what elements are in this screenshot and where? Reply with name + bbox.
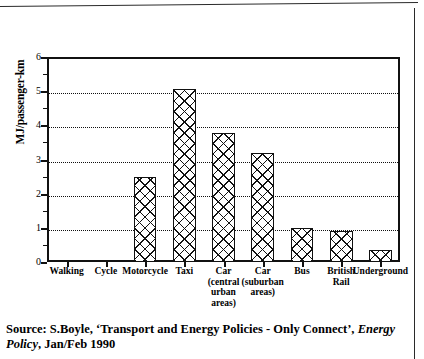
- source-journal: Energy: [358, 322, 396, 336]
- y-tick-label-3: 3: [15, 155, 41, 165]
- bar: [291, 228, 314, 262]
- x-label-line: Underground: [352, 266, 409, 277]
- x-label-line: areas): [234, 287, 291, 298]
- source-journal-cont: Policy: [6, 337, 38, 351]
- bar-slot: [330, 231, 353, 262]
- bar-slot: [173, 89, 196, 262]
- source-issue: , Jan/Feb 1990: [38, 337, 115, 351]
- bar-slot: [369, 250, 392, 262]
- bar-series: [47, 57, 400, 262]
- bar-chart: MJ/passenger-km 0123456 WalkingCycleMoto…: [0, 0, 424, 318]
- bar: [330, 231, 353, 262]
- bar-slot: [212, 133, 235, 262]
- x-label-line: areas): [195, 298, 252, 309]
- y-tick-label-0: 0: [15, 257, 41, 267]
- y-tick-label-1: 1: [15, 223, 41, 233]
- bar-slot: [291, 228, 314, 262]
- y-tick-label-6: 6: [15, 52, 41, 62]
- bar: [251, 153, 274, 262]
- x-label-line: (suburban: [234, 277, 291, 288]
- bar-slot: [251, 153, 274, 262]
- y-axis-tick-labels: 0123456: [13, 57, 41, 262]
- source-caption: Source: S.Boyle, ‘Transport and Energy P…: [6, 322, 410, 338]
- x-label-line: Rail: [313, 277, 370, 288]
- x-category-label: Underground: [352, 266, 409, 277]
- bar-slot: [134, 177, 157, 262]
- source-caption-line2: Policy, Jan/Feb 1990: [6, 337, 410, 353]
- bar: [134, 177, 157, 262]
- x-axis-category-labels: WalkingCycleMotorcycleTaxiCar(centralurb…: [47, 266, 400, 316]
- y-tick-major-0: [41, 262, 47, 264]
- bar: [369, 250, 392, 262]
- y-tick-label-5: 5: [15, 86, 41, 96]
- y-tick-label-4: 4: [15, 120, 41, 130]
- bar: [212, 133, 235, 262]
- source-text: Source: S.Boyle, ‘Transport and Energy P…: [6, 322, 358, 336]
- y-tick-label-2: 2: [15, 189, 41, 199]
- bar: [173, 89, 196, 262]
